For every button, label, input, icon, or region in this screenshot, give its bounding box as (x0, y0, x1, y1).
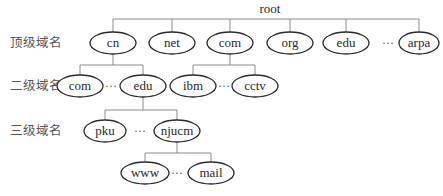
svg-text:ibm: ibm (183, 78, 203, 93)
svg-text:com: com (219, 35, 241, 50)
node-org: org (267, 32, 313, 54)
level-label-top: 顶级域名 (10, 35, 62, 50)
dns-hierarchy-diagram: root 顶级域名 二级域名 三级域名 cn net com org edu ·… (0, 0, 443, 196)
svg-text:mail: mail (199, 165, 222, 180)
svg-text:cctv: cctv (244, 78, 266, 93)
ellipsis-njucm: ··· (171, 166, 183, 180)
edges-com (193, 54, 255, 75)
svg-text:edu: edu (134, 78, 153, 93)
svg-text:www: www (131, 165, 160, 180)
edges-root (113, 19, 419, 32)
ellipsis-edu: ··· (134, 124, 146, 138)
node-pku: pku (84, 120, 126, 142)
root-label: root (260, 1, 281, 16)
node-njucm: njucm (154, 120, 200, 142)
node-cn: cn (90, 32, 136, 54)
edges-njucm (145, 142, 211, 162)
node-edu: edu (323, 32, 369, 54)
node-com-cctv: cctv (232, 75, 278, 97)
ellipsis-com: ··· (218, 79, 230, 93)
node-arpa: arpa (399, 32, 439, 54)
node-www: www (121, 162, 169, 184)
svg-text:org: org (281, 35, 299, 50)
svg-text:com: com (69, 78, 91, 93)
svg-text:njucm: njucm (161, 123, 194, 138)
svg-text:pku: pku (95, 123, 115, 138)
svg-text:net: net (164, 35, 180, 50)
node-net: net (149, 32, 195, 54)
tree-svg: root 顶级域名 二级域名 三级域名 cn net com org edu ·… (0, 0, 443, 196)
svg-text:arpa: arpa (408, 35, 431, 50)
node-cn-edu: edu (120, 75, 166, 97)
edges-edu (105, 97, 177, 120)
node-com-ibm: ibm (170, 75, 216, 97)
ellipsis-cn: ··· (105, 79, 117, 93)
level-label-third: 三级域名 (10, 123, 62, 138)
node-cn-com: com (57, 75, 103, 97)
svg-text:edu: edu (337, 35, 356, 50)
level-label-second: 二级域名 (10, 78, 62, 93)
node-com: com (207, 32, 253, 54)
node-mail: mail (188, 162, 234, 184)
ellipsis-level1: ··· (382, 36, 394, 50)
edges-cn (80, 54, 143, 75)
svg-text:cn: cn (107, 35, 120, 50)
